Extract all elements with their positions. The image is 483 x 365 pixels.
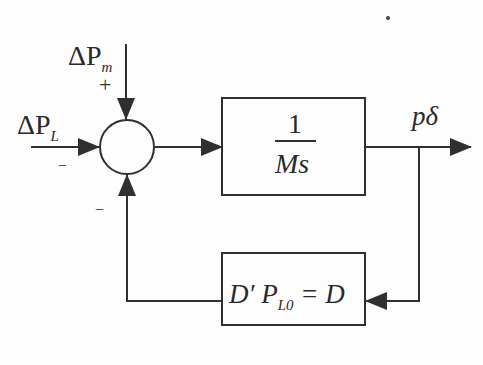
feedback-prefix: D′ P bbox=[229, 279, 278, 309]
feedback-block-label: D′ PL0 = D bbox=[229, 281, 345, 308]
delta-p-symbol: ΔP bbox=[68, 40, 102, 71]
plus-sign: + bbox=[99, 74, 111, 96]
minus-sign-feedback: − bbox=[95, 202, 104, 218]
feedback-suffix: = D bbox=[300, 279, 344, 309]
output-label: pδ bbox=[412, 103, 438, 130]
input-dPm-label: ΔPm bbox=[68, 42, 112, 70]
subscript-L0: L0 bbox=[278, 297, 294, 313]
feedback-path-right bbox=[366, 147, 419, 301]
summing-junction bbox=[100, 120, 154, 174]
subscript-L: L bbox=[51, 128, 59, 144]
forward-denominator: Ms bbox=[275, 150, 309, 178]
stray-mark bbox=[386, 16, 390, 20]
minus-sign-dPL: − bbox=[58, 158, 67, 174]
input-dPL-label: ΔPL bbox=[17, 111, 59, 139]
forward-numerator: 1 bbox=[288, 110, 302, 138]
delta-p-symbol: ΔP bbox=[17, 109, 51, 140]
block-diagram: ΔPm + ΔPL − − 1 Ms pδ D′ PL0 = D bbox=[0, 0, 483, 365]
feedback-path-left bbox=[127, 175, 222, 301]
